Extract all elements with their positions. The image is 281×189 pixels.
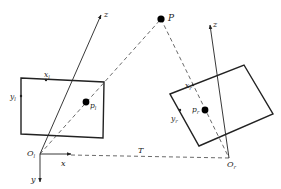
left-image-y-label: yl — [9, 92, 16, 102]
left-x-axis-label: x — [61, 159, 66, 168]
right-z-label: z — [212, 20, 218, 29]
left-image-x-label: xl — [44, 70, 50, 80]
world-point-label: P — [167, 13, 175, 23]
stereo-diagram: P z z x y Ol Or xl yl pl xr yr pr T — [0, 0, 281, 189]
ray-left — [40, 19, 161, 154]
right-image-y-label: yr — [170, 114, 178, 124]
world-point — [157, 15, 164, 22]
left-z-label: z — [103, 10, 109, 19]
right-projection-point — [202, 107, 209, 114]
right-image-x-label: xr — [185, 81, 192, 91]
baseline — [71, 155, 229, 158]
left-y-axis-label: y — [30, 175, 36, 184]
baseline-label: T — [138, 146, 144, 155]
right-projection-label: pr — [192, 105, 200, 115]
right-z-axis — [210, 25, 229, 158]
left-projection-point — [83, 99, 90, 106]
left-origin-label: Ol — [27, 149, 36, 159]
left-z-axis — [40, 15, 101, 154]
right-image-y-marker — [179, 109, 181, 111]
left-projection-label: pl — [90, 101, 97, 111]
left-image-x-marker — [45, 79, 47, 81]
left-image-y-marker — [20, 95, 22, 97]
right-origin-label: Or — [227, 160, 237, 170]
